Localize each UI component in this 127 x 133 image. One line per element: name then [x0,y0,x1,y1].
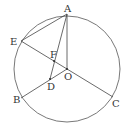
point-o [66,68,68,70]
segment-bo [21,69,67,98]
label-f: F [50,49,57,60]
label-c: C [112,98,120,109]
geometry-diagram: A E F O D B C [0,0,127,133]
segment-ae [21,14,67,41]
label-e: E [10,36,17,47]
point-f [53,60,55,62]
label-d: D [47,81,55,92]
label-a: A [63,3,72,14]
segment-ad [50,14,67,79]
label-b: B [13,94,20,105]
point-d [49,78,51,80]
label-o: O [64,71,72,82]
